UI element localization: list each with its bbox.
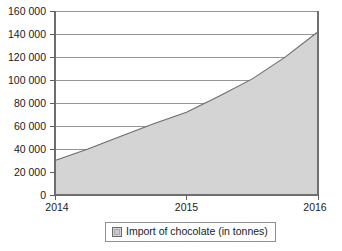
chart-container: 160 000 140 000 120 000 100 000 80 000 6… [0, 0, 342, 251]
series-color-swatch-inner-icon [114, 229, 119, 234]
y-tick-labels: 160 000 140 000 120 000 100 000 80 000 6… [8, 5, 46, 201]
x-tick-label-2016: 2016 [303, 201, 327, 213]
y-tick-label-20000: 20 000 [14, 166, 46, 178]
y-tick-label-40000: 40 000 [14, 143, 46, 155]
chart-legend: Import of chocolate (in tonnes) [105, 222, 275, 241]
legend-label-import-of-chocolate: Import of chocolate (in tonnes) [126, 225, 268, 237]
y-tick-label-80000: 80 000 [14, 97, 46, 109]
y-tick-label-140000: 140 000 [8, 28, 46, 40]
y-tick-label-60000: 60 000 [14, 120, 46, 132]
x-tick-label-2015: 2015 [175, 201, 199, 213]
x-tick-label-2014: 2014 [45, 201, 69, 213]
y-tick-label-160000: 160 000 [8, 5, 46, 17]
area-chart: 160 000 140 000 120 000 100 000 80 000 6… [0, 0, 342, 251]
y-tick-label-120000: 120 000 [8, 51, 46, 63]
y-tick-label-100000: 100 000 [8, 74, 46, 86]
y-tick-label-0: 0 [40, 189, 46, 201]
